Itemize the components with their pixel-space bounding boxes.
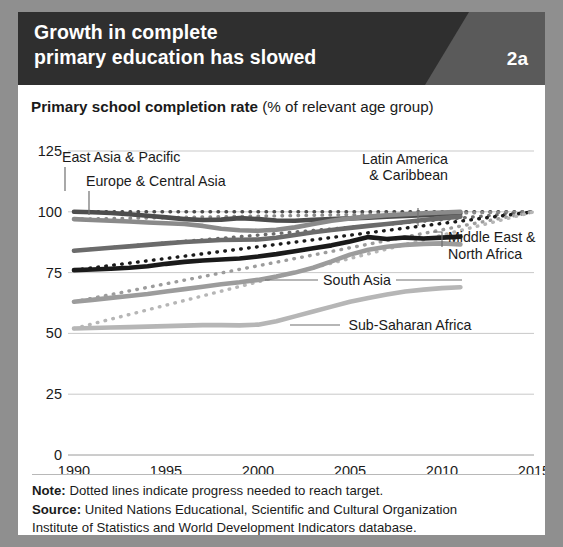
label-europe-central-asia: Europe & Central Asia bbox=[86, 173, 226, 189]
figure-number-badge: 2a bbox=[507, 48, 528, 70]
gridlines-group bbox=[68, 151, 534, 455]
title-band: Growth in complete primary education has… bbox=[18, 12, 545, 85]
chart-subtitle-strong: Primary school completion rate bbox=[31, 98, 258, 115]
label-sub-saharan-africa: Sub-Saharan Africa bbox=[348, 317, 471, 333]
note-label: Note: bbox=[32, 483, 66, 498]
label-mena-line2: North Africa bbox=[448, 246, 522, 262]
chart-subtitle-light: (% of relevant age group) bbox=[262, 98, 433, 115]
note-text: Dotted lines indicate progress needed to… bbox=[69, 483, 383, 498]
label-south-asia: South Asia bbox=[323, 272, 391, 288]
data-lines-group bbox=[74, 212, 460, 329]
source-text: United Nations Educational, Scientific a… bbox=[85, 502, 457, 517]
line-chart-svg: 0255075100125 199019952000200520102015 E… bbox=[18, 120, 545, 475]
series-line-middle-east-north-africa bbox=[74, 237, 460, 271]
note-line: Note: Dotted lines indicate progress nee… bbox=[32, 482, 537, 501]
chart-plot-area: 0255075100125 199019952000200520102015 E… bbox=[18, 120, 545, 475]
figure-root: Growth in complete primary education has… bbox=[0, 0, 563, 547]
figure-title-line-1: Growth in complete bbox=[34, 20, 414, 45]
y-tick-label-50: 50 bbox=[46, 325, 62, 341]
y-tick-label-100: 100 bbox=[38, 204, 62, 220]
label-mena-line1: Middle East & bbox=[448, 229, 536, 245]
label-latin-america-line1: Latin America bbox=[362, 151, 448, 167]
figure-panel: Growth in complete primary education has… bbox=[18, 12, 545, 535]
label-latin-america-line2: & Caribbean bbox=[369, 167, 448, 183]
label-east-asia-pacific: East Asia & Pacific bbox=[62, 149, 180, 165]
series-annotation-labels: East Asia & PacificEurope & Central Asia… bbox=[62, 149, 536, 333]
figure-title: Growth in complete primary education has… bbox=[34, 20, 414, 70]
y-tick-label-0: 0 bbox=[54, 447, 62, 463]
footer-divider bbox=[32, 474, 537, 475]
source-line: Source: United Nations Educational, Scie… bbox=[32, 501, 537, 520]
figure-footnotes: Note: Dotted lines indicate progress nee… bbox=[32, 482, 537, 535]
chart-subtitle: Primary school completion rate (% of rel… bbox=[31, 98, 434, 115]
figure-title-line-2: primary education has slowed bbox=[34, 45, 414, 70]
y-tick-label-125: 125 bbox=[38, 143, 62, 159]
source-label: Source: bbox=[32, 502, 81, 517]
source-line-2: Institute of Statistics and World Develo… bbox=[32, 519, 537, 535]
y-tick-label-75: 75 bbox=[46, 265, 62, 281]
y-tick-label-25: 25 bbox=[46, 386, 62, 402]
y-axis-tick-labels: 0255075100125 bbox=[38, 143, 62, 463]
